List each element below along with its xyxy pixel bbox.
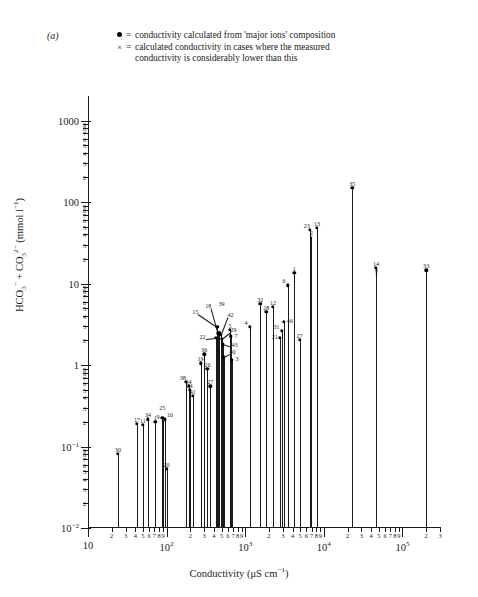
label-leader-line [220,317,228,335]
data-stem [266,312,267,528]
x-tick-major [88,527,89,537]
data-point-label: 41 [190,389,196,395]
x-tick-minor-label: 6 [383,532,386,539]
data-stem [137,424,138,528]
data-stem [167,469,168,528]
data-point-label: 39 [218,301,224,307]
y-tick-minor-label: 5 [83,386,86,393]
x-tick-label: 104 [317,540,331,553]
data-point-label: 21 [272,334,278,340]
y-axis-title: HCO3− + CO32− (mmol l−1) [12,198,28,312]
y-tick-minor-label: 2 [83,337,86,344]
x-marker-icon: × [113,42,126,54]
x-tick-minor-label: 3 [360,532,363,539]
data-stem [193,396,194,528]
x-tick-minor-label: 2 [110,532,113,539]
x-tick-minor-label: 2 [189,532,192,539]
dot-marker-icon [113,30,126,42]
x-axis-line [88,527,440,528]
data-marker-dot [280,329,283,332]
y-tick-minor-label: 3 [83,323,86,330]
x-tick-minor-label: 5 [141,532,144,539]
y-tick-minor-label: 3 [83,404,86,411]
data-point-label: 12 [270,300,276,306]
x-tick-minor-label: 5 [377,532,380,539]
y-tick-minor-label: 2 [83,174,86,181]
data-stem [201,363,202,528]
data-point-label: 8 [375,267,378,273]
data-stem [282,331,283,528]
y-tick-minor-label: 2 [83,255,86,262]
x-tick-minor-label: 9 [161,532,164,539]
data-point-label: 3 [236,356,239,362]
x-tick-minor-label: 8 [157,532,160,539]
x-tick-minor-label: 5 [220,532,223,539]
data-marker-dot [282,320,285,323]
data-point-label: 33 [423,263,429,269]
y-tick-minor-label: 3 [83,160,86,167]
x-tick-minor-label: 3 [124,532,127,539]
y-tick-minor-label: 4 [83,475,86,482]
data-point-label: 7 [235,333,238,339]
panel-label: (a) [47,30,59,41]
y-tick-label: 1 [74,360,79,371]
data-point-label: 23 [304,223,310,229]
data-point-label: 32 [257,297,263,303]
data-stem [426,270,427,528]
data-point-label: 27 [296,333,302,339]
data-stem [294,273,295,528]
data-marker-dot [230,358,233,361]
y-tick-minor-label: 4 [83,149,86,156]
x-tick-minor-label: 2 [346,532,349,539]
y-tick-minor-label: 5 [83,142,86,149]
x-tick-minor-label: 8 [236,532,239,539]
x-tick-minor-label: 9 [240,532,243,539]
data-point-label: 19 [197,356,203,362]
data-point-label: 43 [232,342,238,348]
data-point-label: 34 [145,412,151,418]
data-point-label: 35 [349,181,355,187]
x-tick-major [402,527,403,537]
data-stem [190,390,191,528]
x-tick-minor-label: 7 [231,532,234,539]
legend: = conductivity calculated from 'major io… [113,30,335,65]
y-tick-minor-label: 4 [83,394,86,401]
data-point-label: 25 [159,405,165,411]
x-tick-minor-label: 3 [203,532,206,539]
y-tick-minor-label: 9 [83,202,86,209]
x-tick-minor-label: 2 [425,532,428,539]
y-tick-label: 100 [63,197,79,208]
x-tick-minor-label: 4 [134,532,137,539]
data-stem [186,382,187,528]
data-point-label: 2 [310,230,313,236]
y-tick-minor-label: 9 [83,447,86,454]
y-tick-minor-label: 9 [83,121,86,128]
data-stem [232,360,233,528]
x-tick-minor-label: 3 [438,532,441,539]
data-stem [317,228,318,528]
data-point-label: 1 [293,266,296,272]
data-stem [288,285,289,528]
label-leader-line [206,338,216,340]
data-stem [300,340,301,528]
y-axis-line [88,96,89,528]
data-stem [207,369,208,528]
y-tick-minor-label: 4 [83,231,86,238]
data-stem [143,425,144,528]
data-point-label: 13 [314,221,320,227]
data-point-label: 11 [140,418,146,424]
data-stem [250,327,251,528]
data-point-label: 26 [204,362,210,368]
x-tick-major [324,527,325,537]
x-tick-label: 105 [395,540,409,553]
y-tick-label: 1000 [58,115,79,126]
data-point-label: 9 [156,414,159,420]
data-stem [204,354,205,528]
x-tick-minor-label: 7 [389,532,392,539]
y-tick-minor-label: 4 [83,312,86,319]
x-tick-minor-label: 7 [153,532,156,539]
x-tick-minor-label: 6 [148,532,151,539]
data-point-label: 4 [244,320,247,326]
y-tick-major [81,528,91,529]
x-tick-minor-label: 7 [310,532,313,539]
